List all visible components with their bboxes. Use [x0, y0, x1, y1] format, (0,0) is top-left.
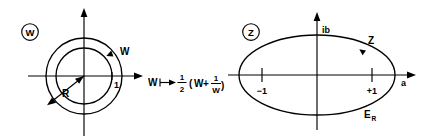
transform-expression: W 1 2 ( W + 1 W ) [148, 62, 226, 102]
z-plane-ellipse-name: E R [364, 109, 377, 122]
w-plane-radius-label: R [62, 88, 70, 99]
z-plane-diagram: Z ib a Z −1 +1 E R [228, 0, 433, 140]
ellipse-name-base: E [364, 109, 371, 120]
transform-close-paren: ) [221, 80, 224, 91]
w-plane-label: W [26, 27, 35, 38]
z-plane-real-axis-label: a [401, 78, 407, 88]
fraction-numerator: 1 [180, 73, 185, 82]
z-plane-real-axis [228, 72, 416, 79]
ellipse-name-subscript: R [372, 115, 377, 122]
conformal-mapping-figure: W W R 1 W 1 2 ( W + 1 [0, 0, 433, 140]
z-plane-tick-negative-label: −1 [257, 86, 267, 96]
z-plane-trace-label: Z [368, 35, 374, 46]
z-plane-imaginary-axis [314, 12, 321, 130]
reciprocal-denominator: W [212, 86, 220, 95]
fraction-denominator: 2 [180, 85, 185, 94]
w-plane-imaginary-axis [81, 8, 88, 136]
z-plane-imaginary-axis-label: ib [322, 25, 331, 35]
transform-source-symbol: W [148, 77, 158, 88]
w-plane-trace-label: W [120, 46, 130, 57]
w-plane-label-badge: W [22, 24, 39, 41]
w-plane-real-axis [28, 73, 143, 80]
transform-plus-sign: + [203, 78, 209, 89]
w-plane-unit-label: 1 [114, 80, 119, 90]
z-plane-label-badge: Z [243, 24, 260, 41]
transform-reciprocal-fraction: 1 W [211, 74, 221, 95]
reciprocal-numerator: 1 [214, 74, 219, 83]
w-plane-diagram: W W R 1 [0, 0, 160, 140]
transform-one-half-fraction: 1 2 [178, 73, 187, 94]
maps-to-icon [160, 79, 176, 87]
z-plane-direction-arrowhead [359, 49, 366, 55]
z-plane-tick-positive-label: +1 [367, 86, 377, 96]
transform-open-paren: ( [189, 78, 193, 89]
z-plane-label: Z [248, 27, 254, 38]
